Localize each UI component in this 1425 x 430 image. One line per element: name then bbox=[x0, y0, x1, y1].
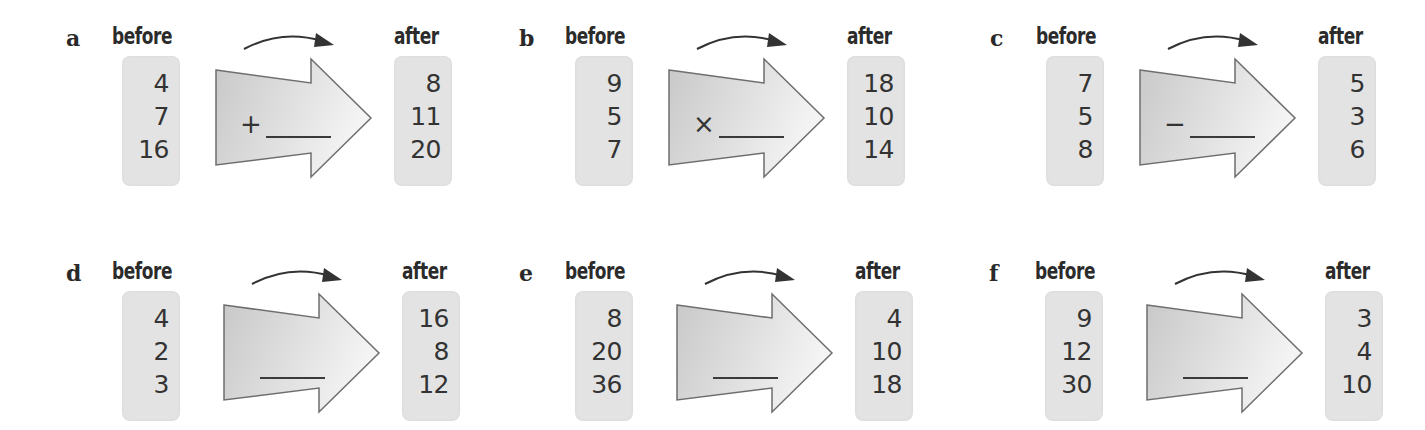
function-arrow-icon bbox=[214, 57, 376, 181]
after-label: after bbox=[855, 259, 900, 283]
function-machine-panel: e before after 8 20 36 bbox=[519, 262, 919, 430]
curved-arrow-icon bbox=[1166, 27, 1266, 57]
after-value: 18 bbox=[855, 368, 913, 401]
after-value: 4 bbox=[855, 302, 913, 335]
before-label: before bbox=[565, 24, 625, 48]
panel-letter: f bbox=[989, 262, 998, 284]
before-label: before bbox=[565, 259, 625, 283]
curved-arrow-icon bbox=[1173, 262, 1273, 292]
after-value: 4 bbox=[1325, 335, 1383, 368]
after-value: 10 bbox=[855, 335, 913, 368]
curved-arrow-icon bbox=[695, 27, 795, 57]
before-value: 8 bbox=[1046, 133, 1104, 166]
before-value: 4 bbox=[122, 67, 180, 100]
before-value: 9 bbox=[575, 67, 633, 100]
answer-blank[interactable] bbox=[719, 136, 784, 138]
after-value: 10 bbox=[1325, 368, 1383, 401]
before-value: 5 bbox=[1046, 100, 1104, 133]
before-value: 30 bbox=[1045, 368, 1103, 401]
after-value: 6 bbox=[1318, 133, 1376, 166]
after-value: 16 bbox=[402, 302, 460, 335]
after-value: 3 bbox=[1325, 302, 1383, 335]
panel-letter: c bbox=[990, 27, 1003, 49]
before-value: 16 bbox=[122, 133, 180, 166]
panel-letter: e bbox=[519, 262, 533, 284]
answer-blank[interactable] bbox=[1190, 136, 1255, 138]
function-arrow-icon bbox=[222, 292, 384, 416]
before-values-box: 9 5 7 bbox=[575, 56, 633, 186]
curved-arrow-icon bbox=[242, 27, 342, 57]
function-arrow-icon bbox=[1145, 292, 1307, 416]
function-machine-panel: d before after 4 2 3 bbox=[66, 262, 466, 430]
after-label: after bbox=[1318, 24, 1363, 48]
function-machine-panel: c before after 7 5 8 − bbox=[990, 27, 1390, 207]
before-label: before bbox=[112, 259, 172, 283]
after-value: 3 bbox=[1318, 100, 1376, 133]
after-label: after bbox=[847, 24, 892, 48]
function-machine-panel: b before after 9 5 7 × bbox=[519, 27, 919, 207]
after-values-box: 4 10 18 bbox=[855, 291, 913, 421]
after-values-box: 16 8 12 bbox=[402, 291, 460, 421]
before-value: 5 bbox=[575, 100, 633, 133]
after-values-box: 3 4 10 bbox=[1325, 291, 1383, 421]
panel-letter: b bbox=[519, 27, 534, 49]
function-machine-panel: a before after 4 7 16 + bbox=[66, 27, 466, 207]
after-values-box: 5 3 6 bbox=[1318, 56, 1376, 186]
before-value: 36 bbox=[575, 368, 633, 401]
before-value: 7 bbox=[122, 100, 180, 133]
before-values-box: 7 5 8 bbox=[1046, 56, 1104, 186]
operator-symbol: × bbox=[693, 111, 715, 137]
before-label: before bbox=[1035, 259, 1095, 283]
after-value: 14 bbox=[847, 133, 905, 166]
operator-symbol: − bbox=[1164, 111, 1186, 137]
after-value: 8 bbox=[394, 67, 452, 100]
answer-blank[interactable] bbox=[713, 377, 778, 379]
before-values-box: 8 20 36 bbox=[575, 291, 633, 421]
after-values-box: 18 10 14 bbox=[847, 56, 905, 186]
answer-blank[interactable] bbox=[1183, 377, 1248, 379]
before-label: before bbox=[1036, 24, 1096, 48]
curved-arrow-icon bbox=[703, 262, 803, 292]
panel-letter: d bbox=[66, 262, 81, 284]
after-label: after bbox=[394, 24, 439, 48]
after-value: 20 bbox=[394, 133, 452, 166]
after-label: after bbox=[1325, 259, 1370, 283]
before-value: 7 bbox=[575, 133, 633, 166]
function-arrow-icon bbox=[675, 292, 837, 416]
operator-symbol: + bbox=[240, 111, 262, 137]
after-value: 10 bbox=[847, 100, 905, 133]
before-value: 7 bbox=[1046, 67, 1104, 100]
answer-blank[interactable] bbox=[260, 377, 325, 379]
function-machine-panel: f before after 9 12 30 bbox=[989, 262, 1389, 430]
after-value: 8 bbox=[402, 335, 460, 368]
function-arrow-icon bbox=[667, 57, 829, 181]
before-value: 3 bbox=[122, 368, 180, 401]
before-value: 4 bbox=[122, 302, 180, 335]
before-value: 2 bbox=[122, 335, 180, 368]
curved-arrow-icon bbox=[250, 262, 350, 292]
panel-letter: a bbox=[66, 27, 80, 49]
before-label: before bbox=[112, 24, 172, 48]
before-value: 9 bbox=[1045, 302, 1103, 335]
answer-blank[interactable] bbox=[266, 136, 331, 138]
after-value: 18 bbox=[847, 67, 905, 100]
after-value: 5 bbox=[1318, 67, 1376, 100]
before-values-box: 4 2 3 bbox=[122, 291, 180, 421]
before-value: 8 bbox=[575, 302, 633, 335]
before-values-box: 4 7 16 bbox=[122, 56, 180, 186]
after-values-box: 8 11 20 bbox=[394, 56, 452, 186]
function-arrow-icon bbox=[1138, 57, 1300, 181]
after-value: 12 bbox=[402, 368, 460, 401]
after-value: 11 bbox=[394, 100, 452, 133]
before-values-box: 9 12 30 bbox=[1045, 291, 1103, 421]
before-value: 12 bbox=[1045, 335, 1103, 368]
after-label: after bbox=[402, 259, 447, 283]
before-value: 20 bbox=[575, 335, 633, 368]
